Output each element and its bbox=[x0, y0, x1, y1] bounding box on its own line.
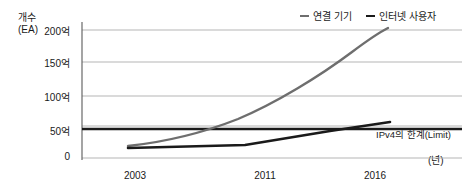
plot-area bbox=[0, 0, 473, 193]
chart-container: 개수 (EA) 200억 150억 100억 50억 0 2003 2011 2… bbox=[0, 0, 473, 193]
ipv4-limit-annotation: IPv4의 한계(Limit) bbox=[376, 127, 451, 141]
